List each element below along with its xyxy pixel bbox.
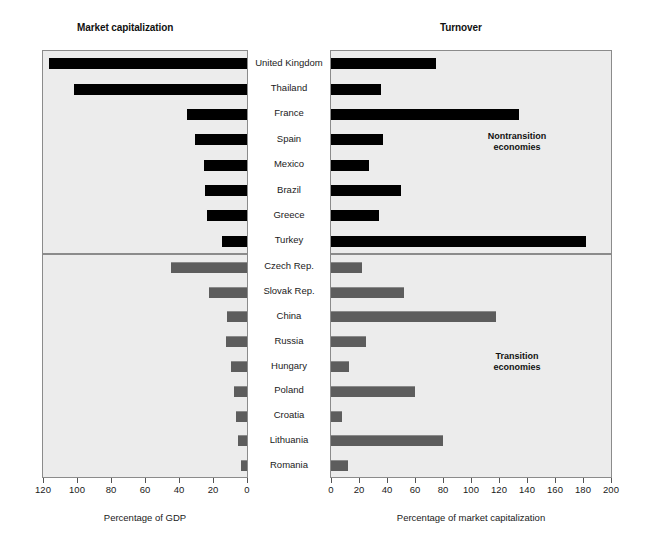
axis-tick-label: 80 — [106, 484, 117, 495]
bar-nontransition-market-capitalization-7 — [222, 236, 247, 247]
axis-tick-label: 0 — [244, 484, 249, 495]
axis-tick — [499, 478, 500, 483]
bar-transition-turnover-2 — [331, 311, 496, 322]
bar-nontransition-turnover-7 — [331, 236, 586, 247]
axis-tick — [611, 478, 612, 483]
axis-tick — [527, 478, 528, 483]
axis-tick — [443, 478, 444, 483]
chart-figure: Market capitalization Turnover United Ki… — [0, 0, 650, 560]
group-annotation-nontransition-line1: Nontransition — [488, 131, 547, 141]
bar-transition-turnover-6 — [331, 411, 342, 422]
bar-transition-turnover-5 — [331, 386, 415, 397]
axis-tick-label: 180 — [575, 484, 591, 495]
category-labels-nontransition: United KingdomThailandFranceSpainMexicoB… — [248, 50, 330, 254]
category-label-mexico: Mexico — [248, 159, 330, 169]
bar-nontransition-turnover-1 — [331, 84, 381, 95]
category-labels-transition: Czech Rep.Slovak Rep.ChinaRussiaHungaryP… — [248, 254, 330, 478]
group-annotation-nontransition-line2: economies — [493, 142, 540, 152]
bar-transition-market-capitalization-1 — [209, 287, 247, 298]
axis-tick — [387, 478, 388, 483]
bar-transition-market-capitalization-0 — [171, 262, 247, 273]
category-label-czech-rep: Czech Rep. — [248, 261, 330, 271]
axis-tick — [583, 478, 584, 483]
group-annotation-transition: Transition economies — [462, 351, 572, 373]
category-label-thailand: Thailand — [248, 83, 330, 93]
bar-transition-turnover-4 — [331, 361, 349, 372]
category-label-poland: Poland — [248, 385, 330, 395]
plot-panel-marketcap-nontransition — [42, 50, 248, 254]
bar-transition-market-capitalization-4 — [231, 361, 247, 372]
axis-tick-label: 40 — [174, 484, 185, 495]
category-label-romania: Romania — [248, 460, 330, 470]
category-label-russia: Russia — [248, 336, 330, 346]
bar-transition-market-capitalization-8 — [241, 460, 247, 471]
bar-nontransition-market-capitalization-6 — [207, 210, 247, 221]
x-axis-turnover: 020406080100120140160180200 — [330, 478, 612, 502]
bar-nontransition-market-capitalization-1 — [74, 84, 247, 95]
category-label-hungary: Hungary — [248, 361, 330, 371]
axis-tick-label: 100 — [69, 484, 85, 495]
panel-title-market-capitalization: Market capitalization — [77, 22, 173, 33]
axis-tick-label: 80 — [438, 484, 449, 495]
category-label-slovak-rep: Slovak Rep. — [248, 286, 330, 296]
axis-tick — [179, 478, 180, 483]
category-label-united-kingdom: United Kingdom — [248, 58, 330, 68]
bar-transition-market-capitalization-3 — [226, 336, 247, 347]
axis-tick — [111, 478, 112, 483]
axis-tick — [471, 478, 472, 483]
category-label-croatia: Croatia — [248, 410, 330, 420]
bar-nontransition-market-capitalization-4 — [204, 160, 248, 171]
group-annotation-transition-line1: Transition — [495, 351, 538, 361]
axis-tick-label: 40 — [382, 484, 393, 495]
bar-transition-turnover-1 — [331, 287, 404, 298]
bar-nontransition-turnover-3 — [331, 134, 383, 145]
axis-tick-label: 20 — [208, 484, 219, 495]
axis-tick — [145, 478, 146, 483]
x-axis-title-turnover: Percentage of market capitalization — [330, 512, 612, 523]
bar-transition-turnover-3 — [331, 336, 366, 347]
axis-tick — [359, 478, 360, 483]
axis-tick-label: 120 — [491, 484, 507, 495]
bar-transition-market-capitalization-2 — [227, 311, 247, 322]
axis-tick — [77, 478, 78, 483]
bar-nontransition-turnover-4 — [331, 160, 369, 171]
bar-nontransition-market-capitalization-5 — [205, 185, 247, 196]
plot-panel-marketcap-transition — [42, 254, 248, 478]
bar-nontransition-market-capitalization-0 — [49, 58, 247, 69]
bar-nontransition-turnover-6 — [331, 210, 379, 221]
category-label-france: France — [248, 108, 330, 118]
axis-tick-label: 200 — [603, 484, 619, 495]
axis-tick — [213, 478, 214, 483]
axis-tick-label: 140 — [519, 484, 535, 495]
bar-nontransition-market-capitalization-3 — [195, 134, 247, 145]
bar-nontransition-turnover-0 — [331, 58, 436, 69]
axis-tick — [247, 478, 248, 483]
category-label-greece: Greece — [248, 210, 330, 220]
bar-transition-turnover-7 — [331, 435, 443, 446]
axis-tick-label: 100 — [463, 484, 479, 495]
axis-tick-label: 60 — [410, 484, 421, 495]
axis-tick — [415, 478, 416, 483]
group-annotation-transition-line2: economies — [493, 362, 540, 372]
bar-transition-market-capitalization-7 — [238, 435, 248, 446]
x-axis-title-market-capitalization: Percentage of GDP — [42, 512, 248, 523]
axis-tick-label: 160 — [547, 484, 563, 495]
axis-tick-label: 20 — [354, 484, 365, 495]
category-label-brazil: Brazil — [248, 185, 330, 195]
category-label-lithuania: Lithuania — [248, 435, 330, 445]
axis-tick-label: 0 — [328, 484, 333, 495]
axis-tick-label: 60 — [140, 484, 151, 495]
category-label-turkey: Turkey — [248, 235, 330, 245]
group-annotation-nontransition: Nontransition economies — [462, 131, 572, 153]
axis-tick — [331, 478, 332, 483]
axis-tick-label: 120 — [35, 484, 51, 495]
bar-nontransition-turnover-2 — [331, 109, 519, 120]
category-label-spain: Spain — [248, 134, 330, 144]
bar-transition-market-capitalization-6 — [236, 411, 247, 422]
bar-transition-market-capitalization-5 — [234, 386, 247, 397]
bar-nontransition-turnover-5 — [331, 185, 401, 196]
x-axis-market-capitalization: 120100806040200 — [42, 478, 248, 502]
bar-transition-turnover-8 — [331, 460, 348, 471]
panel-title-turnover: Turnover — [440, 22, 482, 33]
category-label-china: China — [248, 311, 330, 321]
